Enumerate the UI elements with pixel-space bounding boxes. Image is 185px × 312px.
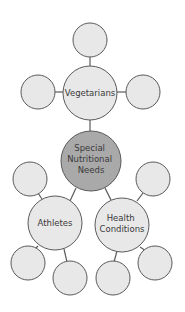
connector-center-health (105, 188, 111, 200)
athletes-label: Athletes (38, 218, 74, 228)
connector-athletes-bottomright (64, 249, 67, 262)
athletes-bottomleft-node (11, 246, 45, 280)
concept-map: Vegetarians Special Nutritional Needs At… (0, 0, 185, 312)
connector-center-athletes (70, 188, 76, 201)
connector-health-topright (137, 193, 143, 201)
vegetarians-left-node (21, 75, 55, 109)
vegetarians-top-node (73, 23, 107, 57)
health-bottomleft-node (96, 261, 130, 295)
vegetarians-right-node (126, 75, 160, 109)
vegetarians-label: Vegetarians (65, 88, 116, 98)
connector-health-bottomleft (114, 251, 117, 262)
athletes-topleft-node (13, 162, 47, 196)
athletes-bottomright-node (53, 261, 87, 295)
health-topright-node (136, 162, 170, 196)
health-bottomright-node (138, 246, 172, 280)
